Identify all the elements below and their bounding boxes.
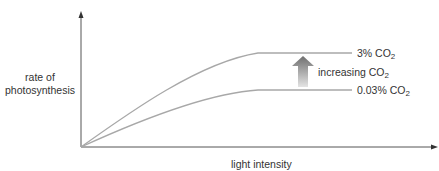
series-label-3pct-main: 3% CO xyxy=(357,47,391,59)
series-label-003pct-co2: 0.03% CO2 xyxy=(357,84,410,96)
series-label-3pct-co2: 3% CO2 xyxy=(357,47,395,59)
annotation-main: increasing CO xyxy=(318,66,385,78)
series-label-003pct-sub: 2 xyxy=(405,89,409,98)
x-axis-arrowhead-icon xyxy=(431,145,438,150)
series-label-3pct-sub: 2 xyxy=(391,52,395,61)
y-axis-label-line-2: photosynthesis xyxy=(0,84,80,97)
increasing-co2-annotation: increasing CO2 xyxy=(318,66,389,78)
increasing-co2-arrow-icon xyxy=(292,56,314,87)
y-axis-arrowhead-icon xyxy=(79,11,84,18)
annotation-sub: 2 xyxy=(385,71,389,80)
x-axis-label: light intensity xyxy=(231,158,292,170)
y-axis-label-line-1: rate of xyxy=(0,71,80,84)
y-axis-label: rate of photosynthesis xyxy=(0,71,80,97)
curve-3pct-co2 xyxy=(81,53,352,147)
series-label-003pct-main: 0.03% CO xyxy=(357,84,405,96)
